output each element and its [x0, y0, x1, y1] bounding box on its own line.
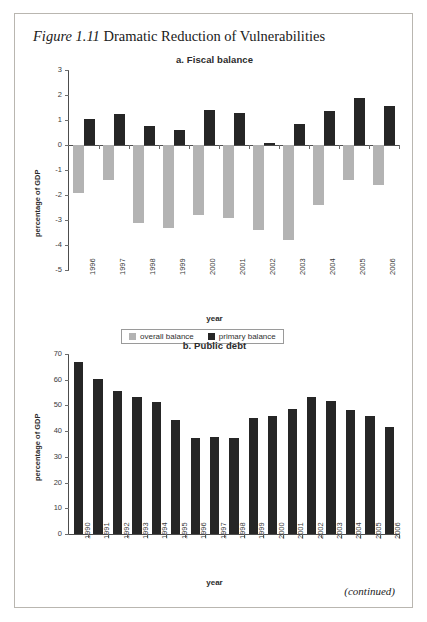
y-tick-mark — [65, 431, 69, 432]
bar-public-debt-2004 — [346, 410, 355, 534]
bar-overall-balance-2005 — [343, 145, 354, 180]
bar-primary-balance-2000 — [204, 110, 215, 145]
plot-area-fiscal-balance: 3210-1-2-3-4-519961997199819992000200120… — [69, 70, 399, 270]
x-tick-label: 2000 — [277, 522, 286, 539]
y-tick-label: 2 — [40, 90, 62, 99]
bar-public-debt-1998 — [229, 438, 238, 534]
y-tick-mark — [65, 245, 69, 246]
y-tick-label: 40 — [40, 426, 62, 435]
x-tick-mark — [279, 145, 280, 149]
x-tick-label: 2003 — [335, 522, 344, 539]
x-tick-label: 2001 — [296, 522, 305, 539]
bar-public-debt-1996 — [191, 438, 200, 534]
bar-primary-balance-2002 — [264, 143, 275, 146]
x-tick-mark — [99, 145, 100, 149]
chart-title-public-debt: b. Public debt — [15, 340, 414, 351]
figure-page: Figure 1.11 Dramatic Reduction of Vulner… — [14, 13, 413, 608]
y-tick-mark — [65, 405, 69, 406]
y-tick-label: 3 — [40, 65, 62, 74]
y-tick-label: 10 — [40, 503, 62, 512]
figure-caption-text: Dramatic Reduction of Vulnerabilities — [103, 28, 325, 44]
y-tick-mark — [65, 70, 69, 71]
bar-overall-balance-1997 — [103, 145, 114, 180]
chart-public-debt: b. Public debt percentage of GDP 7060504… — [15, 326, 414, 596]
x-tick-mark — [249, 145, 250, 149]
y-tick-label: 0 — [40, 529, 62, 538]
bar-primary-balance-1999 — [174, 130, 185, 145]
x-tick-label: 2005 — [358, 258, 367, 275]
bar-public-debt-1992 — [113, 391, 122, 534]
x-tick-label: 1997 — [219, 522, 228, 539]
y-axis-line — [68, 354, 69, 534]
x-tick-label: 2006 — [393, 522, 402, 539]
bar-public-debt-2005 — [365, 416, 374, 534]
bar-overall-balance-2001 — [223, 145, 234, 218]
x-tick-label: 2002 — [316, 522, 325, 539]
chart-fiscal-balance: a. Fiscal balance percentage of GDP 3210… — [15, 52, 414, 342]
x-tick-mark — [129, 145, 130, 149]
continued-note: (continued) — [344, 585, 395, 597]
x-tick-mark — [189, 145, 190, 149]
y-tick-label: 20 — [40, 478, 62, 487]
bar-primary-balance-2001 — [234, 113, 245, 146]
y-tick-mark — [65, 457, 69, 458]
x-tick-mark — [369, 145, 370, 149]
bar-primary-balance-2005 — [354, 98, 365, 146]
bar-public-debt-2001 — [288, 409, 297, 534]
y-tick-label: -3 — [40, 215, 62, 224]
y-tick-label: -1 — [40, 165, 62, 174]
x-tick-label: 1998 — [238, 522, 247, 539]
bar-primary-balance-1998 — [144, 126, 155, 145]
x-tick-label: 2000 — [208, 258, 217, 275]
bar-public-debt-1994 — [152, 402, 161, 534]
y-tick-label: 1 — [40, 115, 62, 124]
x-tick-label: 2005 — [374, 522, 383, 539]
baseline-axis — [69, 534, 399, 535]
bar-primary-balance-2003 — [294, 124, 305, 145]
bar-overall-balance-1999 — [163, 145, 174, 228]
bar-overall-balance-2004 — [313, 145, 324, 205]
y-tick-mark — [65, 220, 69, 221]
x-axis-label-fiscal-balance: year — [15, 314, 414, 323]
bar-public-debt-1995 — [171, 420, 180, 534]
y-tick-mark — [65, 508, 69, 509]
bar-overall-balance-2006 — [373, 145, 384, 185]
y-tick-label: 70 — [40, 349, 62, 358]
y-tick-mark — [65, 354, 69, 355]
y-tick-mark — [65, 270, 69, 271]
bar-public-debt-1997 — [210, 437, 219, 534]
x-tick-label: 1994 — [160, 522, 169, 539]
x-tick-label: 1996 — [88, 258, 97, 275]
y-tick-label: 0 — [40, 140, 62, 149]
bar-overall-balance-2000 — [193, 145, 204, 215]
x-tick-label: 1997 — [118, 258, 127, 275]
y-tick-label: 50 — [40, 400, 62, 409]
x-tick-mark — [309, 145, 310, 149]
x-tick-label: 1990 — [83, 522, 92, 539]
figure-caption: Figure 1.11 Dramatic Reduction of Vulner… — [33, 28, 325, 45]
x-tick-mark — [399, 145, 400, 149]
y-tick-label: -4 — [40, 240, 62, 249]
x-tick-label: 2001 — [238, 258, 247, 275]
x-tick-mark — [159, 145, 160, 149]
x-tick-label: 1999 — [257, 522, 266, 539]
bar-overall-balance-1996 — [73, 145, 84, 193]
y-tick-mark — [65, 170, 69, 171]
bar-overall-balance-2003 — [283, 145, 294, 240]
bar-overall-balance-2002 — [253, 145, 264, 230]
x-tick-label: 1993 — [141, 522, 150, 539]
bar-primary-balance-2004 — [324, 111, 335, 145]
y-tick-label: 30 — [40, 452, 62, 461]
y-tick-mark — [65, 95, 69, 96]
bar-primary-balance-1997 — [114, 114, 125, 145]
x-tick-label: 2004 — [354, 522, 363, 539]
bar-public-debt-1993 — [132, 397, 141, 534]
x-tick-label: 1992 — [122, 522, 131, 539]
bar-public-debt-2000 — [268, 416, 277, 534]
y-tick-label: 60 — [40, 375, 62, 384]
x-tick-label: 2003 — [298, 258, 307, 275]
x-tick-label: 2002 — [268, 258, 277, 275]
bar-public-debt-2006 — [385, 427, 394, 534]
x-tick-label: 2004 — [328, 258, 337, 275]
x-tick-mark — [219, 145, 220, 149]
